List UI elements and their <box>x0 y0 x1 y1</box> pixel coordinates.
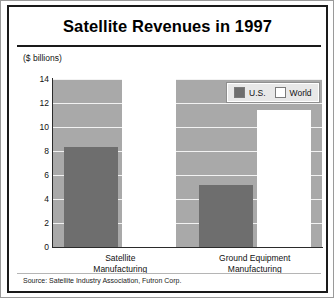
legend-swatch-us-icon <box>234 87 245 98</box>
legend-swatch-world-icon <box>275 87 286 98</box>
title-divider <box>17 45 321 47</box>
y-axis-tick-label: 2 <box>44 218 49 228</box>
bar-us-2 <box>199 185 253 247</box>
gridline <box>53 79 322 80</box>
chart-figure: Satellite Revenues in 1997 ($ billions) … <box>0 0 334 298</box>
x-axis-line <box>52 247 323 248</box>
y-axis-unit-label: ($ billions) <box>23 53 62 63</box>
legend-entry-us: U.S. <box>234 87 266 98</box>
bar-world-1 <box>122 79 176 247</box>
y-axis-tick-labels: 02468101214 <box>23 79 49 247</box>
gridline <box>53 103 322 104</box>
plot-area <box>53 79 322 247</box>
legend-label: World <box>290 88 312 98</box>
y-axis-tick-label: 6 <box>44 170 49 180</box>
y-axis-tick-label: 12 <box>40 98 49 108</box>
chart-legend: U.S.World <box>227 83 319 102</box>
category-label-line: Ground Equipment <box>185 253 325 264</box>
category-label-1: SatelliteManufacturing <box>50 253 190 275</box>
legend-label: U.S. <box>249 88 266 98</box>
bar-us-1 <box>64 147 118 247</box>
category-label-line: Satellite <box>50 253 190 264</box>
y-axis-tick-label: 8 <box>44 146 49 156</box>
chart-title: Satellite Revenues in 1997 <box>9 17 326 36</box>
source-note: Source: Satellite Industry Association, … <box>23 277 181 284</box>
legend-entry-world: World <box>275 87 312 98</box>
bar-world-2 <box>257 110 311 247</box>
y-axis-tick-label: 14 <box>40 74 49 84</box>
y-axis-tick-label: 0 <box>44 242 49 252</box>
chart-frame: Satellite Revenues in 1997 ($ billions) … <box>7 5 328 293</box>
y-axis-tick-label: 10 <box>40 122 49 132</box>
source-divider <box>17 273 321 274</box>
category-label-2: Ground EquipmentManufacturing <box>185 253 325 275</box>
y-axis-tick-label: 4 <box>44 194 49 204</box>
